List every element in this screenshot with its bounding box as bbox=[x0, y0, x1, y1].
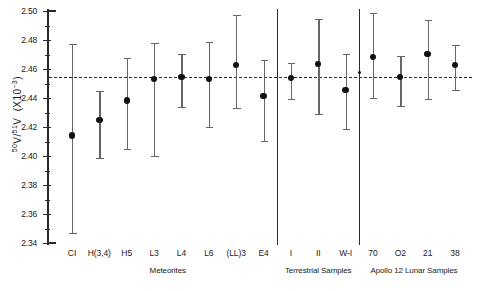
x-label-W-I: W-I bbox=[339, 248, 352, 258]
y-tick-minor bbox=[45, 229, 50, 230]
error-bar-cap-lower bbox=[69, 233, 77, 234]
error-bar-cap-upper bbox=[206, 42, 214, 43]
marker[interactable] bbox=[342, 87, 348, 93]
error-bar-cap-upper bbox=[151, 43, 159, 44]
y-tick-2.34 bbox=[43, 243, 51, 244]
error-bar-cap-lower bbox=[288, 99, 296, 100]
y-tick-label-2.36: 2.36 bbox=[13, 210, 37, 219]
error-bar-cap-upper bbox=[288, 63, 296, 64]
error-bar-cap-upper bbox=[124, 58, 132, 59]
y-tick-label-2.48: 2.48 bbox=[13, 36, 37, 45]
error-bar-cap-upper bbox=[315, 19, 323, 20]
y-tick-2.46 bbox=[43, 69, 51, 70]
x-label-O2: O2 bbox=[395, 248, 406, 258]
marker[interactable] bbox=[424, 51, 430, 57]
error-bar bbox=[264, 60, 265, 141]
error-bar bbox=[428, 20, 429, 99]
error-bar-cap-lower bbox=[178, 107, 186, 108]
group-separator-2 bbox=[359, 9, 360, 245]
marker[interactable] bbox=[288, 75, 294, 81]
error-bar-cap-upper bbox=[69, 44, 77, 45]
error-bar-cap-upper bbox=[397, 56, 405, 57]
x-label-L4: L4 bbox=[177, 248, 186, 258]
error-bar-cap-lower bbox=[96, 158, 104, 159]
y-tick-2.42 bbox=[43, 127, 51, 128]
reference-line bbox=[49, 77, 472, 78]
error-bar-cap-lower bbox=[124, 149, 132, 150]
error-bar bbox=[400, 56, 401, 106]
group-label-2: Terrestrial Samples bbox=[285, 266, 352, 275]
y-tick-label-2.46: 2.46 bbox=[13, 65, 37, 74]
error-bar-cap-upper bbox=[370, 13, 378, 14]
marker[interactable] bbox=[233, 62, 239, 68]
marker[interactable] bbox=[124, 97, 130, 103]
error-bar-cap-lower bbox=[315, 114, 323, 115]
error-bar-cap-lower bbox=[261, 141, 269, 142]
x-label-(LL)3: (LL)3 bbox=[226, 248, 245, 258]
x-label-L3: L3 bbox=[149, 248, 158, 258]
y-tick-minor bbox=[45, 142, 50, 143]
error-bar bbox=[154, 43, 155, 156]
group-separator-1 bbox=[277, 9, 278, 245]
x-label-E4: E4 bbox=[258, 248, 268, 258]
y-tick-label-2.50: 2.50 bbox=[13, 7, 37, 16]
error-bar-cap-upper bbox=[233, 15, 241, 16]
error-bar-cap-upper bbox=[452, 45, 460, 46]
y-tick-minor bbox=[45, 55, 50, 56]
y-tick-2.44 bbox=[43, 98, 51, 99]
error-bar-cap-upper bbox=[425, 20, 433, 21]
y-tick-2.38 bbox=[43, 185, 51, 186]
x-label-II: II bbox=[316, 248, 321, 258]
error-bar-cap-lower bbox=[370, 98, 378, 99]
x-label-I: I bbox=[290, 248, 292, 258]
y-tick-label-2.40: 2.40 bbox=[13, 152, 37, 161]
y-tick-minor bbox=[45, 26, 50, 27]
y-tick-label-2.38: 2.38 bbox=[13, 181, 37, 190]
error-bar-cap-lower bbox=[233, 108, 241, 109]
error-bar-cap-lower bbox=[425, 99, 433, 100]
error-bar-cap-upper bbox=[343, 54, 351, 55]
marker[interactable] bbox=[178, 74, 184, 80]
x-label-CI: CI bbox=[68, 248, 76, 258]
y-tick-2.36 bbox=[43, 214, 51, 215]
x-label-21: 21 bbox=[423, 248, 432, 258]
error-bar-cap-lower bbox=[151, 156, 159, 157]
error-bar-cap-upper bbox=[178, 54, 186, 55]
x-label-38: 38 bbox=[450, 248, 459, 258]
x-label-L6: L6 bbox=[204, 248, 213, 258]
error-bar-cap-lower bbox=[343, 129, 351, 130]
marker[interactable] bbox=[206, 76, 212, 82]
group-label-3: Apollo 12 Lunar Samples bbox=[370, 266, 457, 275]
marker[interactable] bbox=[69, 132, 75, 138]
chart-figure: 50V/51V (X10−3) 2.502.482.462.442.422.40… bbox=[0, 0, 481, 291]
y-tick-minor bbox=[45, 171, 50, 172]
marker[interactable] bbox=[151, 76, 157, 82]
marker[interactable] bbox=[96, 117, 102, 123]
marker[interactable] bbox=[452, 62, 458, 68]
y-tick-minor bbox=[45, 113, 50, 114]
marker[interactable] bbox=[315, 61, 321, 67]
small-marker-1[interactable] bbox=[358, 71, 361, 74]
x-label-70: 70 bbox=[368, 248, 377, 258]
y-tick-label-2.44: 2.44 bbox=[13, 94, 37, 103]
x-label-H5: H5 bbox=[121, 248, 132, 258]
x-label-H(3,4): H(3,4) bbox=[88, 248, 111, 258]
error-bar-cap-lower bbox=[206, 127, 214, 128]
y-tick-label-2.34: 2.34 bbox=[13, 239, 37, 248]
error-bar bbox=[209, 42, 210, 127]
error-bar-cap-lower bbox=[397, 106, 405, 107]
y-tick-2.40 bbox=[43, 156, 51, 157]
y-axis-title: 50V/51V (X10−3) bbox=[11, 39, 23, 189]
error-bar bbox=[181, 54, 182, 107]
marker[interactable] bbox=[370, 54, 376, 60]
y-tick-2.48 bbox=[43, 40, 51, 41]
error-bar bbox=[291, 63, 292, 99]
group-label-1: Meteorites bbox=[150, 266, 186, 275]
marker[interactable] bbox=[260, 93, 266, 99]
marker[interactable] bbox=[397, 74, 403, 80]
y-tick-minor bbox=[45, 200, 50, 201]
error-bar bbox=[99, 91, 100, 158]
error-bar-cap-upper bbox=[96, 91, 104, 92]
y-tick-2.50 bbox=[43, 11, 51, 12]
y-tick-label-2.42: 2.42 bbox=[13, 123, 37, 132]
